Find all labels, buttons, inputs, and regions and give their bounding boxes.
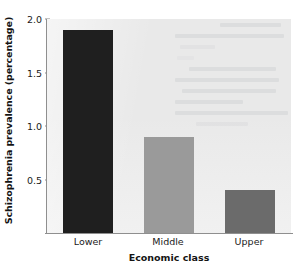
y-tick-label: 1.0	[27, 121, 42, 132]
x-tick-label-lower: Lower	[74, 236, 102, 247]
y-axis-line	[46, 19, 47, 233]
plot-area	[47, 19, 291, 233]
bar-upper[interactable]	[225, 190, 275, 233]
bar-chart-figure: Schizophrenia prevalence (percentage) 2.…	[0, 0, 301, 273]
y-axis-tick-labels: 2.0 1.5 1.0 0.5	[17, 0, 44, 273]
y-axis-title-text: Schizophrenia prevalence (percentage)	[3, 16, 14, 223]
bar-lower[interactable]	[63, 30, 113, 233]
x-tick-label-middle: Middle	[152, 236, 183, 247]
page-bleed-through-artifact	[175, 23, 291, 143]
y-axis-title: Schizophrenia prevalence (percentage)	[0, 0, 17, 240]
y-tick-label: 1.5	[27, 67, 42, 78]
bar-middle[interactable]	[144, 137, 194, 233]
x-tick-label-upper: Upper	[235, 236, 264, 247]
y-tick-label: 0.5	[27, 174, 42, 185]
x-axis-title: Economic class	[47, 252, 291, 263]
y-tick-label: 2.0	[27, 14, 42, 25]
x-axis-line	[45, 233, 293, 234]
